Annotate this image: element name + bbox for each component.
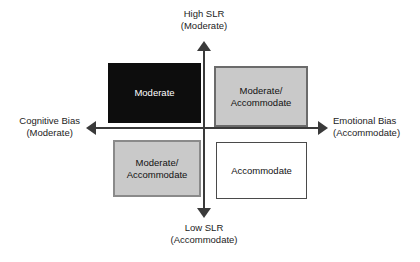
axis-label-right-secondary: (Accommodate) — [333, 127, 400, 139]
quadrant-bottom-right: Accommodate — [216, 142, 307, 199]
axis-label-right: Emotional Bias (Accommodate) — [333, 115, 400, 139]
quadrant-top-left-text: Moderate — [134, 87, 174, 99]
quadrant-top-left: Moderate — [108, 63, 201, 123]
quadrant-top-right-text: Moderate/ Accommodate — [231, 85, 292, 109]
axis-label-bottom-secondary: (Accommodate) — [170, 234, 237, 246]
axis-label-left-primary: Cognitive Bias — [19, 115, 80, 126]
quadrant-bottom-left-line2: Accommodate — [127, 169, 188, 181]
quadrant-top-right: Moderate/ Accommodate — [214, 66, 308, 127]
arrow-right-icon — [318, 121, 328, 135]
quadrant-top-left-line1: Moderate — [134, 87, 174, 98]
axis-label-bottom: Low SLR (Accommodate) — [170, 222, 237, 246]
horizontal-axis-line — [93, 127, 320, 129]
arrow-left-icon — [86, 121, 96, 135]
quadrant-bottom-right-line1: Accommodate — [231, 165, 292, 176]
axis-label-top: High SLR (Moderate) — [181, 8, 227, 32]
vertical-axis-line — [203, 47, 205, 213]
quadrant-top-right-line1: Moderate/ — [240, 85, 283, 96]
quadrant-diagram: High SLR (Moderate) Low SLR (Accommodate… — [0, 0, 420, 262]
quadrant-top-right-line2: Accommodate — [231, 97, 292, 109]
axis-label-right-primary: Emotional Bias — [333, 115, 396, 126]
axis-label-left: Cognitive Bias (Moderate) — [19, 115, 80, 139]
axis-label-top-primary: High SLR — [184, 8, 225, 19]
arrow-down-icon — [197, 208, 211, 218]
axis-label-bottom-primary: Low SLR — [185, 222, 224, 233]
quadrant-bottom-left-line1: Moderate/ — [136, 157, 179, 168]
axis-label-left-secondary: (Moderate) — [19, 127, 80, 139]
axis-label-top-secondary: (Moderate) — [181, 20, 227, 32]
quadrant-bottom-left: Moderate/ Accommodate — [113, 140, 201, 197]
arrow-up-icon — [197, 41, 211, 51]
quadrant-bottom-right-text: Accommodate — [231, 165, 292, 177]
quadrant-bottom-left-text: Moderate/ Accommodate — [127, 157, 188, 181]
